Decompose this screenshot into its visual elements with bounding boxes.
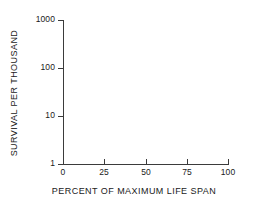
- chart-figure: 1000 100 10 1 0 25 50 75 100 PERCENT OF …: [0, 0, 268, 208]
- y-tick-label-1000: 1000: [36, 15, 55, 24]
- series-layer: [63, 20, 228, 164]
- x-axis-label: PERCENT OF MAXIMUM LIFE SPAN: [0, 186, 268, 196]
- y-tick-100: [58, 68, 64, 69]
- y-tick-label-10: 10: [45, 111, 55, 120]
- x-tick-label-0: 0: [48, 168, 78, 177]
- y-tick-label-1: 1: [50, 159, 55, 168]
- plot-area: [63, 20, 228, 164]
- x-tick-label-25: 25: [89, 168, 119, 177]
- y-axis-label-container: SURVIVAL PER THOUSAND: [6, 20, 22, 165]
- x-tick-label-50: 50: [131, 168, 161, 177]
- x-tick-label-100: 100: [213, 168, 243, 177]
- y-tick-1000: [58, 20, 64, 21]
- x-tick-25: [104, 159, 105, 165]
- x-tick-label-75: 75: [172, 168, 202, 177]
- y-tick-10: [58, 116, 64, 117]
- y-axis-spine: [63, 20, 64, 165]
- x-tick-75: [187, 159, 188, 165]
- x-tick-50: [146, 159, 147, 165]
- y-tick-label-100: 100: [41, 63, 55, 72]
- x-tick-0: [63, 159, 64, 165]
- y-axis-label: SURVIVAL PER THOUSAND: [9, 29, 19, 156]
- x-tick-100: [228, 159, 229, 165]
